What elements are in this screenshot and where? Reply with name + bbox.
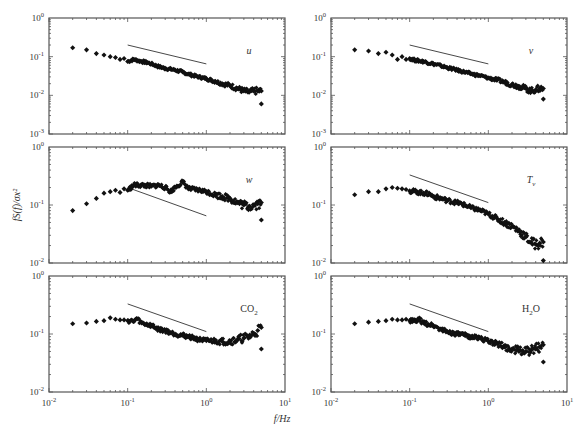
panel-H2O: 10010-110-210-210-1100101H2O (312, 269, 574, 408)
panel-Tv: 10010-110-2Tv (312, 140, 567, 268)
data-markers (70, 315, 264, 351)
tick-label: 10-1 (30, 198, 44, 210)
y-axis-label: fS(f)/σx² (11, 188, 23, 221)
tick-label: 10-3 (30, 127, 44, 139)
tick-label: 10-1 (312, 198, 326, 210)
data-markers (352, 315, 546, 364)
tick-label: 10-2 (312, 385, 326, 397)
tick-label: 100 (32, 11, 44, 23)
tick-label: 10-1 (30, 50, 44, 62)
panel-v: 10010-110-210-3v (312, 11, 567, 139)
tick-label: 10-2 (30, 256, 44, 268)
x-axis-title: f/Hz (274, 413, 291, 424)
tick-label: 10-1 (402, 396, 416, 408)
tick-label: 101 (279, 396, 291, 408)
panel-w: 10010-110-2w (30, 140, 285, 268)
panel-label: Tv (527, 174, 537, 188)
panel-label: v (529, 45, 534, 56)
tick-label: 100 (314, 140, 326, 152)
data-markers (70, 178, 264, 222)
tick-label: 100 (32, 140, 44, 152)
y-axis-title: fS(f)/σx² (11, 188, 23, 221)
panel-grid: 10010-110-210-3u10010-110-210-3v10010-11… (30, 11, 574, 408)
panel-label: CO2 (240, 303, 258, 317)
tick-label: 100 (314, 11, 326, 23)
slope-reference-line (128, 188, 207, 216)
tick-label: 10-2 (42, 396, 56, 408)
tick-label: 10-2 (30, 385, 44, 397)
plot-frame (331, 18, 567, 134)
tick-label: 100 (314, 269, 326, 281)
tick-label: 100 (32, 269, 44, 281)
tick-label: 10-1 (312, 327, 326, 339)
panel-label: u (247, 45, 252, 56)
tick-label: 10-2 (312, 256, 326, 268)
tick-label: 101 (561, 396, 573, 408)
plot-frame (49, 18, 285, 134)
tick-label: 100 (482, 396, 494, 408)
data-markers (352, 185, 546, 263)
tick-label: 10-3 (312, 127, 326, 139)
tick-label: 10-2 (312, 88, 326, 100)
panel-label: w (246, 174, 253, 185)
tick-label: 10-2 (324, 396, 338, 408)
tick-label: 10-1 (312, 50, 326, 62)
tick-label: 10-2 (30, 88, 44, 100)
tick-label: 100 (200, 396, 212, 408)
panel-CO2: 10010-110-210-210-1100101CO2 (30, 269, 292, 408)
tick-label: 10-1 (120, 396, 134, 408)
data-markers (352, 47, 546, 101)
panel-label: H2O (522, 303, 540, 317)
tick-label: 10-1 (30, 327, 44, 339)
x-axis-label: f/Hz (274, 413, 291, 424)
spectra-figure: 10010-110-210-3u10010-110-210-3v10010-11… (0, 0, 582, 436)
panel-u: 10010-110-210-3u (30, 11, 285, 139)
